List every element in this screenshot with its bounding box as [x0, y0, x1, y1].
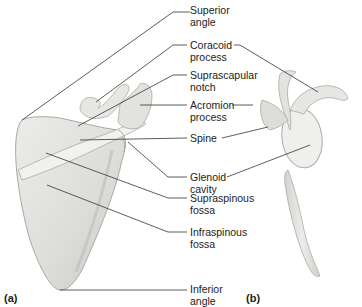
- label-line: Supraspinous: [190, 192, 254, 204]
- leader-glenoid-a: [128, 142, 187, 177]
- label-supraspinous-fossa: Supraspinous fossa: [190, 192, 254, 216]
- label-spine: Spine: [190, 132, 217, 144]
- panel-label-a: (a): [4, 292, 17, 304]
- label-line: Suprascapular: [190, 69, 258, 81]
- label-inferior-angle: Inferior angle: [190, 283, 223, 307]
- scapula-diagram: Superior angle Coracoid process Suprasca…: [0, 0, 362, 307]
- label-line: process: [190, 51, 232, 63]
- lateral-acromion: [290, 86, 348, 114]
- label-line: Glenoid: [190, 171, 226, 183]
- label-acromion-process: Acromion process: [190, 99, 234, 123]
- label-line: angle: [190, 16, 230, 28]
- lateral-body: [285, 170, 320, 277]
- scapula-lateral-view: [260, 71, 348, 277]
- label-line: Superior: [190, 4, 230, 16]
- label-line: Spine: [190, 132, 217, 144]
- label-line: notch: [190, 81, 258, 93]
- label-infraspinous-fossa: Infraspinous fossa: [190, 226, 247, 250]
- label-line: Coracoid: [190, 39, 232, 51]
- scapula-posterior-view: [16, 84, 152, 291]
- label-line: fossa: [190, 238, 247, 250]
- label-coracoid-process: Coracoid process: [190, 39, 232, 63]
- label-line: Infraspinous: [190, 226, 247, 238]
- label-line: process: [190, 111, 234, 123]
- panel-label-b: (b): [246, 292, 260, 304]
- label-suprascapular-notch: Suprascapular notch: [190, 69, 258, 93]
- leader-spine-b: [222, 127, 268, 138]
- label-line: Inferior: [190, 283, 223, 295]
- label-line: angle: [190, 295, 223, 307]
- label-line: fossa: [190, 204, 254, 216]
- label-superior-angle: Superior angle: [190, 4, 230, 28]
- scapula-illustration: [0, 0, 362, 307]
- label-line: Acromion: [190, 99, 234, 111]
